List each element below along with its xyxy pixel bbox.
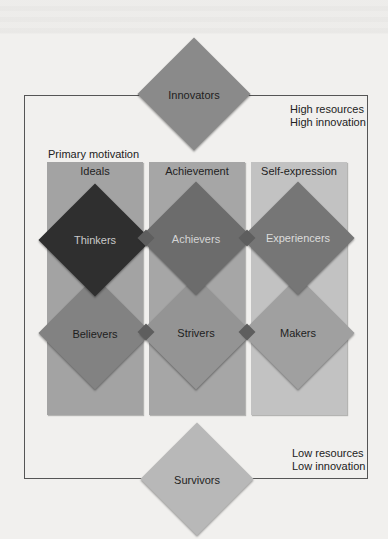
low-resources-label: Low resources Low innovation (292, 447, 365, 473)
page-bleed-through (0, 0, 388, 34)
label-innovators: Innovators (134, 89, 254, 102)
column-label-self-expression: Self-expression (251, 165, 347, 177)
label-survivors: Survivors (137, 474, 257, 487)
label-makers: Makers (238, 327, 358, 340)
column-label-ideals: Ideals (47, 165, 143, 177)
column-label-achievement: Achievement (149, 165, 245, 177)
label-experiencers: Experiencers (238, 232, 358, 245)
primary-motivation-label: Primary motivation (48, 148, 139, 160)
high-resources-label: High resources High innovation (290, 103, 366, 129)
